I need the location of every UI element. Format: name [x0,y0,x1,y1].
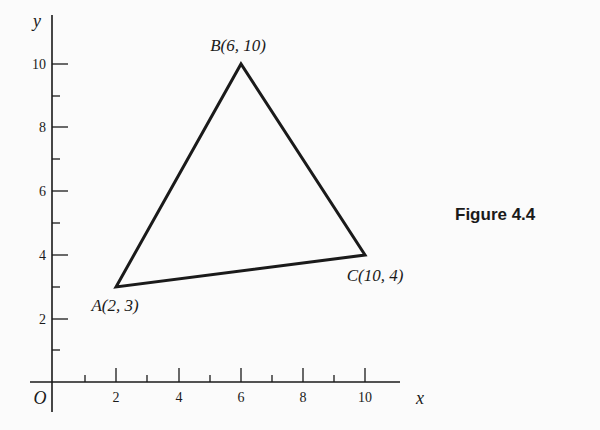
x-tick-label: 4 [176,390,183,405]
origin-label: O [34,388,47,408]
x-tick-label: 8 [300,390,307,405]
x-ticks [85,368,365,382]
y-tick-label: 4 [39,248,46,263]
point-b-label: B(6, 10) [210,36,266,55]
figure-caption: Figure 4.4 [455,205,536,224]
point-c-label: C(10, 4) [347,266,404,285]
triangle-abc [116,64,365,287]
x-tick-label: 10 [358,390,372,405]
y-tick-label: 2 [39,312,46,327]
y-tick-label: 10 [32,57,46,72]
x-tick-label: 2 [113,390,120,405]
y-tick-label: 6 [39,184,46,199]
y-ticks [52,64,68,350]
point-a-label: A(2, 3) [90,296,139,315]
triangle-diagram: 2 4 6 8 10 2 4 6 8 10 y x O A(2, 3) B(6,… [0,0,600,430]
y-tick-label: 8 [39,120,46,135]
x-tick-label: 6 [238,390,245,405]
y-axis-label: y [31,11,41,31]
x-axis-label: x [415,388,424,408]
